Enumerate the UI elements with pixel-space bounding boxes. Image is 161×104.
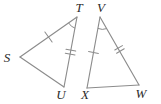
segment-XW <box>87 85 139 88</box>
angle-arc-T <box>69 23 76 28</box>
segment-SU <box>20 57 64 87</box>
vertex-label-U: U <box>56 87 67 102</box>
triangle-VXW <box>87 17 139 88</box>
angle-arc-V <box>98 28 107 29</box>
triangle-STU <box>20 17 77 87</box>
geometry-canvas: S T U V X W <box>0 0 161 104</box>
vertex-label-V: V <box>97 0 107 15</box>
tick-mark-ST-single <box>45 32 52 42</box>
vertex-label-X: X <box>80 87 90 102</box>
segment-TU <box>64 17 77 87</box>
geometry-figure: S T U V X W <box>0 0 161 104</box>
vertex-label-S: S <box>4 50 11 65</box>
vertex-label-W: W <box>136 86 148 101</box>
tick-mark-VW-double <box>115 46 124 54</box>
vertex-label-T: T <box>75 0 83 15</box>
